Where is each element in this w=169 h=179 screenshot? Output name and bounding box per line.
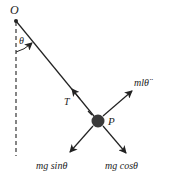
acceleration-label: mlθ̈ [134,77,153,88]
pendulum-diagram: O θ T P mlθ̈ mg sinθ mg cosθ [0,0,169,179]
tension-label: T [64,96,71,107]
pendulum-bob [92,115,105,128]
acceleration-arrow [103,91,132,116]
bob-label: P [107,115,115,127]
mg-sin-arrow [70,126,93,152]
mg-cos-label: mg cosθ [105,160,138,171]
pivot-point [14,19,18,23]
pivot-label: O [10,3,19,17]
tension-arrow [72,89,80,99]
mg-sin-label: mg sinθ [36,160,67,171]
angle-label: θ [19,35,24,46]
mg-cos-arrow [103,126,126,153]
pendulum-string [16,21,98,121]
